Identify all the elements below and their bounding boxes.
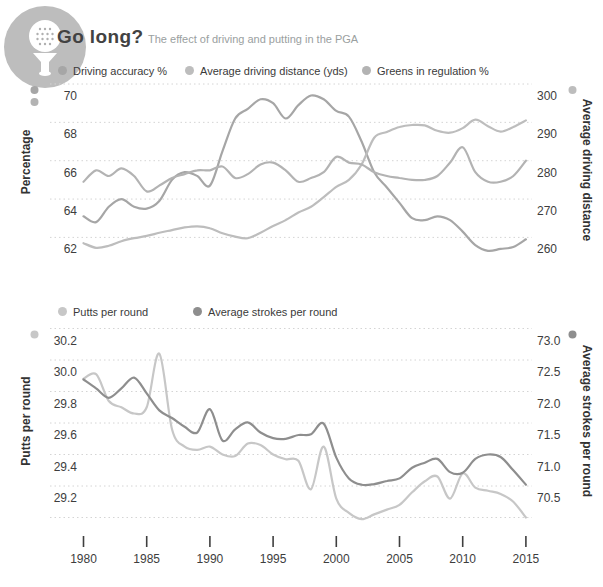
y-tick-label-right: 72.5 <box>537 365 560 379</box>
x-tick-label: 2005 <box>386 552 413 566</box>
y-tick-label-right: 73.0 <box>537 334 560 348</box>
y-tick-label-right: 300 <box>537 89 557 103</box>
right-axis-series-dot <box>569 86 577 94</box>
y-tick-label-right: 71.5 <box>537 428 560 442</box>
y-tick-label-right: 71.0 <box>537 460 560 474</box>
y-tick-label-right: 70.5 <box>537 491 560 505</box>
y-tick-label-right: 270 <box>537 204 557 218</box>
y-tick-label-left: 29.4 <box>37 460 77 474</box>
y-tick-label-left: 29.2 <box>37 491 77 505</box>
series-line-driving-accuracy <box>84 95 526 251</box>
x-tick-label: 1980 <box>70 552 97 566</box>
y-tick-label-left: 30.0 <box>37 365 77 379</box>
x-tick-label: 2010 <box>449 552 476 566</box>
y-tick-label-left: 29.6 <box>37 428 77 442</box>
series-line-greens-in-regulation <box>84 147 526 192</box>
y-tick-label-right: 72.0 <box>537 397 560 411</box>
y-tick-label-right: 280 <box>537 166 557 180</box>
x-tick-label: 2000 <box>323 552 350 566</box>
y-tick-label-right: 260 <box>537 242 557 256</box>
x-tick-label: 1990 <box>197 552 224 566</box>
x-tick-label: 1985 <box>133 552 160 566</box>
right-axis-series-dot <box>569 331 577 339</box>
y-tick-label-left: 30.2 <box>37 334 77 348</box>
x-tick-label: 1995 <box>260 552 287 566</box>
line-charts-canvas <box>0 0 603 587</box>
y-tick-label-left: 68 <box>37 127 77 141</box>
chart-page: Go long? The effect of driving and putti… <box>0 0 603 587</box>
y-tick-label-right: 290 <box>537 127 557 141</box>
y-tick-label-left: 64 <box>37 204 77 218</box>
y-tick-label-left: 29.8 <box>37 397 77 411</box>
y-tick-label-left: 66 <box>37 166 77 180</box>
y-tick-label-left: 62 <box>37 242 77 256</box>
series-line-putts-per-round <box>84 353 526 519</box>
x-tick-label: 2015 <box>513 552 540 566</box>
y-tick-label-left: 70 <box>37 89 77 103</box>
